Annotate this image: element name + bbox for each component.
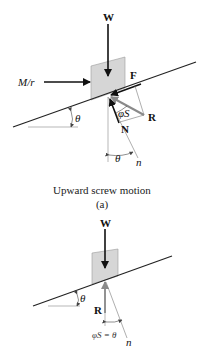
figure-a: θ W M/r F n θ R N φS Upward screw motion <box>13 11 196 211</box>
figure-b: θ W R n φS = θ <box>33 217 172 348</box>
incline-angle-arc <box>77 294 79 306</box>
weight-label: W <box>103 11 114 23</box>
friction-angle-condition: φS = θ <box>92 330 117 340</box>
incline-angle-label: θ <box>80 292 86 304</box>
friction-angle-label: φS <box>118 107 130 119</box>
friction-label: F <box>130 69 137 81</box>
incline-angle-arc <box>71 111 73 127</box>
figure-tag: (a) <box>96 198 109 211</box>
screw-free-body-diagrams: θ W M/r F n θ R N φS Upward screw motion <box>0 0 204 349</box>
normal-axis-label: n <box>136 156 142 168</box>
normal-force-label: N <box>121 123 129 135</box>
incline-angle-label: θ <box>75 112 81 124</box>
normal-angle-arc <box>109 152 133 156</box>
resultant-label: R <box>94 304 103 316</box>
weight-label: W <box>100 217 111 229</box>
moment-force-label: M/r <box>17 76 35 88</box>
normal-axis-label: n <box>126 336 132 348</box>
figure-caption: Upward screw motion <box>53 184 151 196</box>
normal-angle-label: θ <box>115 152 121 164</box>
normal-angle-arc <box>106 320 122 322</box>
resultant-label: R <box>148 111 157 123</box>
